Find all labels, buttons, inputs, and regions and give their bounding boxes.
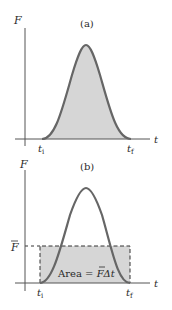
y-axis-label-b: F [19,158,28,171]
impulse-diagram: F (a) t ti tf F (b) F Area = FΔt t [0,0,172,310]
svg-text:Area = FΔt: Area = FΔt [57,268,116,279]
t-final-label-a: tf [127,143,135,156]
x-axis-label-a: t [154,134,159,145]
panel-title-a: (a) [80,18,94,29]
panel-title-b: (b) [80,161,94,172]
t-initial-label-b: ti [37,287,44,300]
t-initial-label-a: ti [38,143,45,156]
t-final-label-b: tf [126,287,134,300]
y-axis-label-a: F [13,14,22,27]
panel-b: F (b) F Area = FΔt t ti tf [10,158,159,300]
x-axis-label-b: t [154,278,159,289]
average-force-label: F [10,241,19,254]
area-label: Area = FΔt [57,267,116,279]
panel-a: F (a) t ti tf [13,14,159,156]
svg-text:F: F [10,241,19,254]
